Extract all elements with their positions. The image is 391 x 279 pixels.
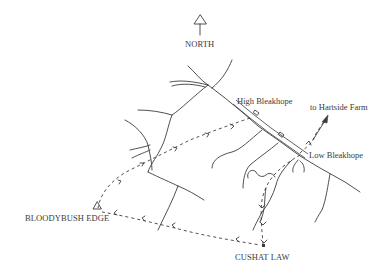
stream-network — [125, 60, 360, 230]
place-high-bleakhope: High Bleakhope — [237, 97, 292, 106]
route-arrows — [114, 115, 328, 243]
place-low-bleakhope: Low Bleakhope — [309, 151, 363, 160]
north-arrow-icon — [194, 15, 206, 35]
place-cushat-law: CUSHAT LAW — [235, 253, 290, 262]
triangle-summit-icon — [93, 202, 101, 209]
dot-summit-icon — [262, 244, 265, 247]
place-bloodybush-edge: BLOODYBUSH EDGE — [25, 214, 109, 223]
place-hartside-farm: to Hartside Farm — [310, 103, 368, 112]
north-label: NORTH — [185, 40, 214, 49]
walking-route — [98, 118, 325, 245]
route-map: NORTH High Bleakhope to Hartside Farm Lo… — [0, 0, 391, 279]
